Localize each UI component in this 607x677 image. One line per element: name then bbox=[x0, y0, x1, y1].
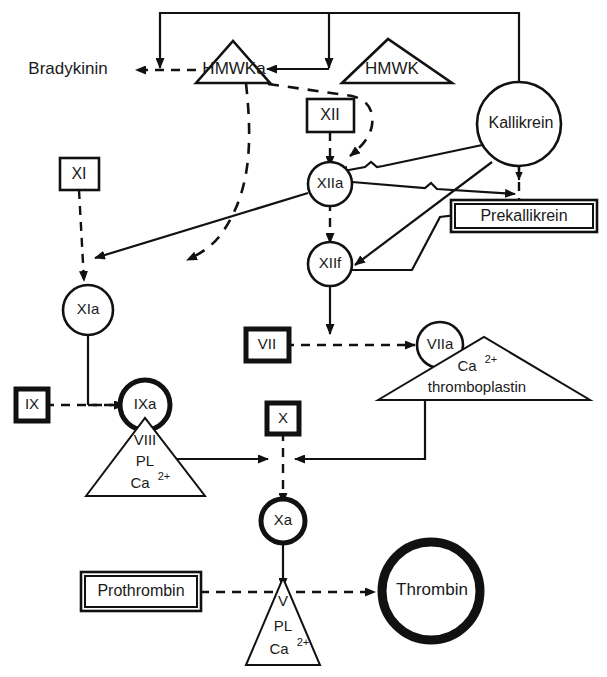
node-factor-x[interactable]: X bbox=[267, 403, 299, 434]
factor-ixa-label: IXa bbox=[134, 395, 157, 412]
node-factor-xii[interactable]: XII bbox=[307, 99, 354, 132]
coagulation-cascade-diagram: Bradykinin HMWKa HMWK Kallikrein XII XII… bbox=[0, 0, 607, 677]
tenase-line3-sup: 2+ bbox=[158, 470, 171, 482]
tenase-line3: Ca bbox=[130, 474, 150, 491]
hmwk-label: HMWK bbox=[365, 59, 419, 78]
prothrombinase-line2: PL bbox=[274, 617, 292, 634]
prothrombin-label: Prothrombin bbox=[97, 582, 184, 599]
node-factor-vii[interactable]: VII bbox=[246, 329, 289, 361]
tenase-line2: PL bbox=[136, 452, 154, 469]
node-hmwka[interactable]: HMWKa bbox=[196, 41, 270, 83]
node-kallikrein[interactable]: Kallikrein bbox=[477, 82, 561, 166]
factor-xia-label: XIa bbox=[77, 300, 100, 317]
tissue-factor-line1: Ca bbox=[457, 357, 477, 374]
cascade-canvas: Bradykinin HMWKa HMWK Kallikrein XII XII… bbox=[0, 0, 607, 677]
node-factor-ix[interactable]: IX bbox=[16, 389, 48, 421]
node-factor-xi[interactable]: XI bbox=[60, 158, 99, 190]
tissue-factor-line1-sup: 2+ bbox=[485, 353, 498, 365]
factor-viia-label: VIIa bbox=[427, 335, 454, 352]
thrombin-label: Thrombin bbox=[396, 580, 468, 599]
factor-xiif-label: XIIf bbox=[319, 254, 342, 271]
hmwka-cofactor-dashed-curve bbox=[187, 83, 249, 260]
tissue-factor-line2: thromboplastin bbox=[428, 378, 526, 395]
bradykinin-label: Bradykinin bbox=[28, 59, 107, 78]
node-factor-xia[interactable]: XIa bbox=[63, 285, 113, 335]
node-factor-xiif[interactable]: XIIf bbox=[308, 242, 352, 286]
node-prekallikrein[interactable]: Prekallikrein bbox=[451, 200, 597, 232]
prekallikrein-label: Prekallikrein bbox=[480, 207, 567, 224]
factor-vii-label: VII bbox=[258, 335, 276, 352]
tissue-factor-to-x-arrow bbox=[295, 400, 425, 459]
factor-xiia-label: XIIa bbox=[317, 174, 344, 191]
node-prothrombin[interactable]: Prothrombin bbox=[81, 572, 201, 611]
node-factor-xa[interactable]: Xa bbox=[261, 499, 305, 543]
xiia-to-prekallikrein-arrow bbox=[352, 182, 515, 194]
xiia-to-xi-arrow bbox=[95, 193, 308, 258]
factor-ix-label: IX bbox=[25, 395, 39, 412]
tenase-line1: VIII bbox=[134, 431, 157, 448]
kallikrein-label: Kallikrein bbox=[489, 114, 554, 131]
node-bradykinin[interactable]: Bradykinin bbox=[28, 59, 107, 78]
node-factor-xiia[interactable]: XIIa bbox=[308, 162, 352, 206]
complex-tenase[interactable]: VIII PL Ca 2+ bbox=[86, 418, 205, 496]
node-hmwk[interactable]: HMWK bbox=[342, 39, 452, 83]
node-thrombin[interactable]: Thrombin bbox=[382, 542, 480, 640]
factor-xii-label: XII bbox=[320, 106, 340, 123]
complex-tissue-factor[interactable]: Ca 2+ thromboplastin bbox=[378, 337, 590, 400]
complex-prothrombinase[interactable]: V PL Ca 2+ bbox=[246, 578, 320, 665]
prothrombinase-line1: V bbox=[278, 592, 288, 609]
hmwka-label: HMWKa bbox=[202, 59, 266, 78]
factor-xa-label: Xa bbox=[274, 511, 293, 528]
xi-to-xia-arrow bbox=[79, 190, 84, 281]
prothrombinase-line3: Ca bbox=[269, 640, 289, 657]
xia-to-ixa-line bbox=[88, 335, 124, 405]
prothrombinase-line3-sup: 2+ bbox=[297, 636, 310, 648]
factor-x-label: X bbox=[278, 409, 288, 426]
factor-xi-label: XI bbox=[71, 165, 86, 182]
